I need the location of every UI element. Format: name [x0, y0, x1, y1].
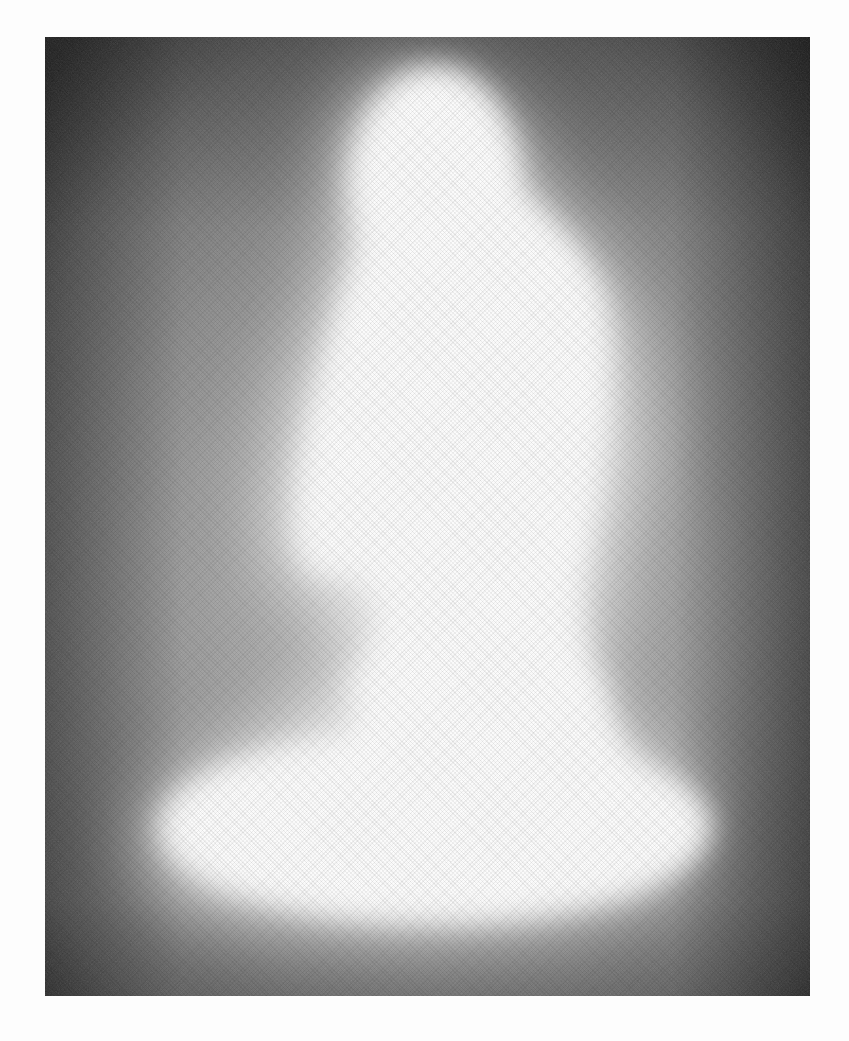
- photographic-plate: [45, 37, 810, 996]
- cropped-heading-text: [0, 0, 849, 12]
- glowing-silhouette-image: [45, 37, 810, 996]
- scanned-page: [0, 0, 849, 1041]
- below-plate-margin: [45, 1006, 810, 1026]
